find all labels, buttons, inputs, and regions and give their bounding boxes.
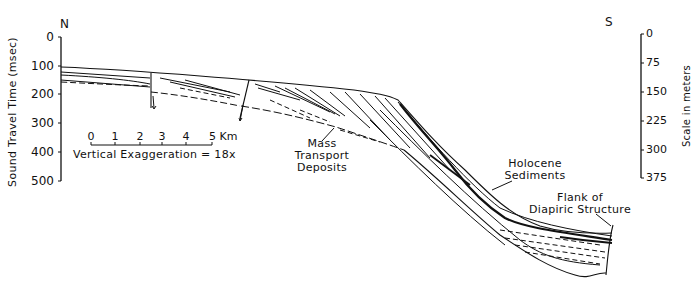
right-axis-title: Scale in meters — [681, 65, 692, 147]
vertical-exaggeration: Vertical Exaggeration = 18x — [73, 149, 236, 161]
scale-tick: 2 — [137, 131, 144, 143]
south-label: S — [605, 16, 613, 28]
north-label: N — [60, 18, 69, 30]
left-tick: 500 — [14, 175, 54, 187]
mass-transport-label: Deposits — [297, 162, 347, 174]
scale-tick: 4 — [183, 131, 190, 143]
scale-tick: 1 — [112, 131, 119, 143]
holocene-label: Sediments — [505, 170, 566, 182]
scale-tick-km: 5 Km — [209, 131, 237, 143]
right-tick: 375 — [646, 172, 667, 184]
left-tick: 300 — [14, 117, 54, 129]
right-tick: 225 — [646, 115, 667, 127]
left-tick: 400 — [14, 146, 54, 158]
scale-tick: 3 — [159, 131, 166, 143]
right-tick: 0 — [646, 28, 653, 40]
right-tick: 300 — [646, 144, 667, 156]
cross-section-drawing — [0, 0, 698, 288]
seismic-cross-section-figure: N S Sound Travel Time (msec) 0 100 200 3… — [0, 0, 698, 288]
right-tick: 75 — [646, 57, 660, 69]
left-tick: 100 — [14, 60, 54, 72]
right-tick: 150 — [646, 86, 667, 98]
left-tick: 0 — [14, 31, 54, 43]
left-tick: 200 — [14, 88, 54, 100]
diapir-label: Diapiric Structure — [529, 204, 631, 216]
scale-tick: 0 — [88, 131, 95, 143]
